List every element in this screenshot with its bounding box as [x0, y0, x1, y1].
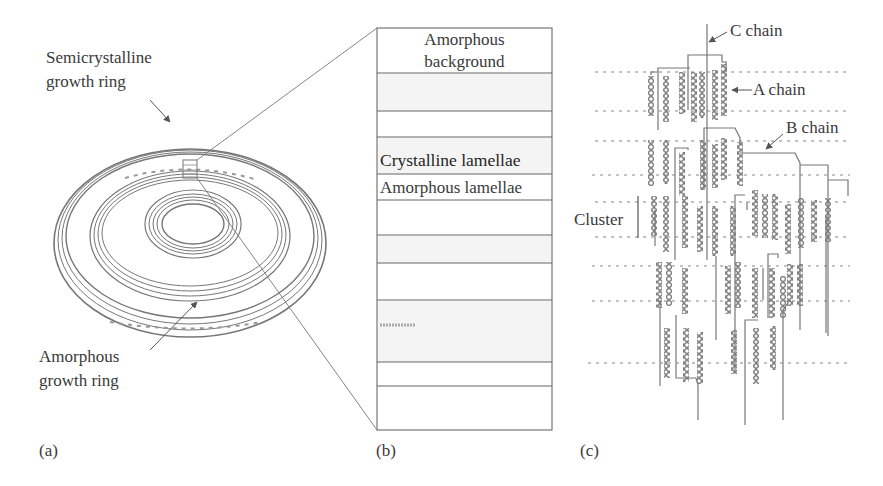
ring-band-texture	[110, 169, 262, 328]
semicrystalline-label-line1: Semicrystalline	[46, 48, 152, 68]
c-chain-arrow	[709, 32, 727, 42]
cluster-dotted-lines	[588, 72, 850, 363]
cluster-label: Cluster	[574, 210, 623, 230]
zoom-connector-bottom	[197, 178, 377, 430]
panel-c-label: (c)	[580, 441, 599, 461]
semicrystalline-label-line2: growth ring	[46, 72, 126, 92]
c-chain-label: C chain	[730, 21, 782, 41]
panel-b-label: (b)	[376, 441, 396, 461]
amorphous-background-line2: background	[377, 52, 552, 72]
amorphous-background-line1: Amorphous	[377, 30, 552, 50]
panel-a-label: (a)	[39, 441, 58, 461]
amorphous-arrow	[150, 302, 197, 350]
figure-canvas	[0, 0, 883, 486]
semicrystalline-arrow	[150, 100, 170, 122]
zoom-connector-top	[197, 28, 377, 160]
a-chain-label: A chain	[753, 80, 805, 100]
crystalline-lamellae-label: Crystalline lamellae	[380, 150, 520, 170]
amorphous-lamellae-label: Amorphous lamellae	[380, 178, 522, 198]
amorphous-ring-label-line2: growth ring	[39, 371, 119, 391]
amorphous-ring-label-line1: Amorphous	[39, 347, 119, 367]
b-chain-label: B chain	[786, 118, 838, 138]
